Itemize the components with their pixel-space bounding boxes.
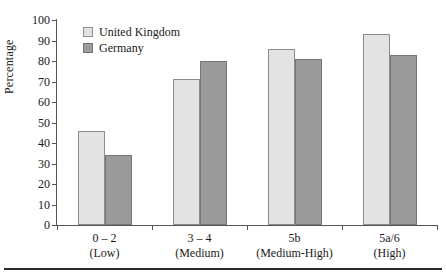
bar-germany: [390, 55, 417, 225]
y-tick-label: 80: [38, 55, 50, 67]
x-category-label: 5a/6(High): [342, 231, 437, 261]
y-tick-label: 40: [38, 137, 50, 149]
x-tick-mark: [57, 225, 58, 230]
bottom-divider-rule: [4, 268, 442, 270]
x-category-label-line2: (Medium-High): [247, 246, 342, 261]
x-category-label-line1: 5b: [247, 231, 342, 246]
y-tick-label: 60: [38, 96, 50, 108]
bar-group: [247, 20, 342, 225]
chart-legend: United Kingdom Germany: [83, 24, 180, 56]
legend-label-united-kingdom: United Kingdom: [99, 24, 180, 40]
y-tick-label: 90: [38, 35, 50, 47]
x-category-label: 3 – 4(Medium): [152, 231, 247, 261]
x-category-label-line2: (Medium): [152, 246, 247, 261]
y-tick-label: 50: [38, 117, 50, 129]
x-tick-mark: [247, 225, 248, 230]
y-tick-label: 10: [38, 199, 50, 211]
legend-item-united-kingdom: United Kingdom: [83, 24, 180, 40]
x-category-label-line2: (High): [342, 246, 437, 261]
x-category-label-line1: 3 – 4: [152, 231, 247, 246]
x-category-label-line1: 0 – 2: [57, 231, 152, 246]
bar-united-kingdom: [363, 34, 390, 225]
legend-item-germany: Germany: [83, 40, 180, 56]
y-tick-label: 30: [38, 158, 50, 170]
y-tick-label: 100: [32, 14, 50, 26]
bar-germany: [105, 155, 132, 225]
x-tick-mark: [437, 225, 438, 230]
bar-united-kingdom: [78, 131, 105, 225]
bar-germany: [200, 61, 227, 225]
legend-label-germany: Germany: [99, 40, 144, 56]
y-axis-title: Percentage: [2, 39, 17, 94]
legend-swatch-icon-germany: [83, 43, 93, 53]
bar-chart-figure: Percentage 0102030405060708090100 0 – 2(…: [0, 0, 446, 278]
x-category-label-line2: (Low): [57, 246, 152, 261]
bar-united-kingdom: [268, 49, 295, 225]
bar-group: [342, 20, 437, 225]
x-tick-mark: [152, 225, 153, 230]
x-category-label-line1: 5a/6: [342, 231, 437, 246]
y-tick-label: 70: [38, 76, 50, 88]
bar-united-kingdom: [173, 79, 200, 225]
y-tick-label: 20: [38, 178, 50, 190]
x-tick-mark: [342, 225, 343, 230]
x-category-label: 0 – 2(Low): [57, 231, 152, 261]
x-category-label: 5b(Medium-High): [247, 231, 342, 261]
bar-germany: [295, 59, 322, 225]
legend-swatch-icon-united-kingdom: [83, 27, 93, 37]
y-tick-label: 0: [44, 219, 50, 231]
